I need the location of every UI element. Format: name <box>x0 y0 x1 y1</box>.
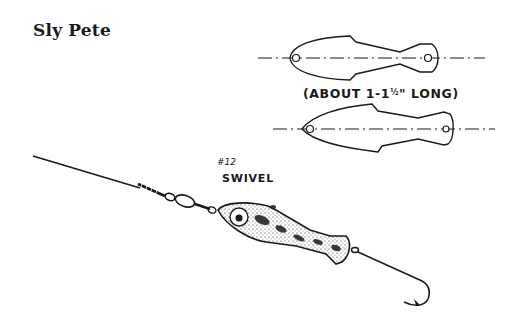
knot-icon <box>138 184 165 196</box>
illustration-canvas: Sly Pete <box>0 0 519 312</box>
hole-icon <box>425 55 432 62</box>
swivel-barrel-icon <box>174 193 196 210</box>
dimension-fraction: ½ <box>390 89 399 97</box>
dimension-prefix: (ABOUT 1-1 <box>303 86 390 101</box>
dimension-label: (ABOUT 1-1½" LONG) <box>303 86 459 101</box>
top-template-outline <box>258 36 485 80</box>
fishing-line <box>33 156 140 188</box>
hook-icon <box>358 252 429 305</box>
swivel-number-label: #12 <box>217 157 236 167</box>
drawing <box>0 0 519 312</box>
hole-icon <box>307 126 314 133</box>
hole-icon <box>293 55 300 62</box>
swivel-label: SWIVEL <box>222 172 274 185</box>
dimension-suffix: " LONG) <box>399 86 459 101</box>
swivel-ring-icon <box>164 192 176 202</box>
hole-icon <box>443 126 449 132</box>
bottom-template-outline <box>273 104 495 152</box>
